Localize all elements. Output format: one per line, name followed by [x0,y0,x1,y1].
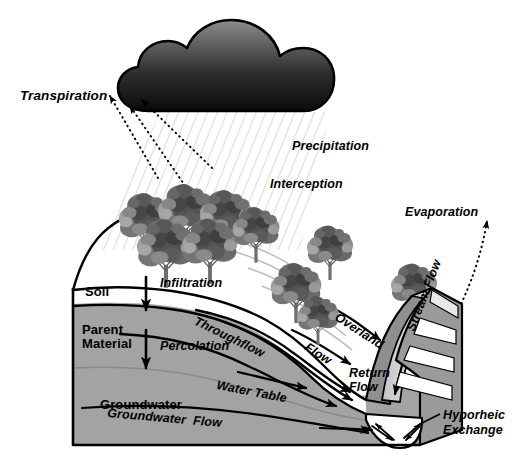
label-percolation: Percolation [160,339,229,353]
label-return-flow-line1: Return [349,366,390,380]
label-interception: Interception [270,177,343,191]
label-infiltration: Infiltration [160,276,222,290]
label-transpiration: Transpiration [20,88,107,103]
label-soil: Soil [85,285,109,300]
label-hyporheic-line1: Hyporheic [443,408,505,422]
label-return-flow-line2: Flow [349,380,378,394]
label-precipitation: Precipitation [292,139,369,153]
hydrological-cycle-diagram: Transpiration Precipitation Interception… [0,0,520,465]
label-parent-material-line2: Material [82,337,132,352]
label-hyporheic-line2: Exchange [443,423,503,437]
cloud-shape [118,20,334,111]
label-evaporation: Evaporation [405,205,478,219]
